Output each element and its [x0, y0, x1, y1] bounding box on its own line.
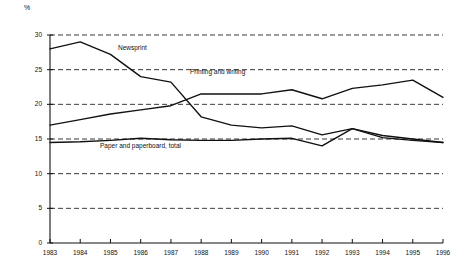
x-tick-label: 1987	[156, 249, 186, 256]
x-tick-label: 1984	[65, 249, 95, 256]
series-label-newsprint: Newsprint	[118, 44, 147, 51]
x-tick-label: 1995	[398, 249, 428, 256]
x-tick-label: 1983	[35, 249, 65, 256]
chart-plot-area	[0, 0, 463, 266]
series-label-paper-and-paperboard-total: Paper and paperboard, total	[100, 142, 181, 149]
x-tick-label: 1991	[277, 249, 307, 256]
x-tick-label: 1986	[126, 249, 156, 256]
series-line-printing-and-writing	[50, 80, 443, 125]
x-tick-label: 1996	[428, 249, 458, 256]
y-tick-label: 25	[26, 66, 42, 73]
gridlines	[50, 35, 443, 208]
y-tick-label: 0	[26, 239, 42, 246]
series-label-printing-and-writing: Printing and writing	[190, 68, 245, 75]
x-tick-label: 1992	[307, 249, 337, 256]
line-chart: % 051015202530 1983198419851986198719881…	[0, 0, 463, 266]
x-tick-label: 1988	[186, 249, 216, 256]
y-tick-label: 30	[26, 31, 42, 38]
x-tick-label: 1989	[216, 249, 246, 256]
y-tick-label: 20	[26, 100, 42, 107]
series-lines	[50, 42, 443, 146]
y-tick-label: 5	[26, 204, 42, 211]
x-tick-label: 1985	[95, 249, 125, 256]
y-tick-label: 10	[26, 170, 42, 177]
x-tick-label: 1993	[337, 249, 367, 256]
x-tick-label: 1990	[247, 249, 277, 256]
series-line-newsprint	[50, 42, 443, 143]
x-tick-label: 1994	[368, 249, 398, 256]
y-tick-label: 15	[26, 135, 42, 142]
